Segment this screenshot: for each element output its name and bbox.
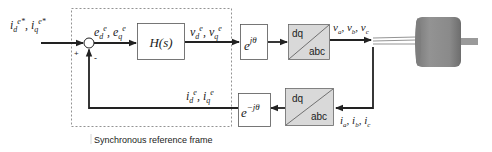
summing-junction — [84, 38, 94, 48]
current-sense-path — [336, 47, 373, 108]
abc-to-dq-block: dq abc — [286, 89, 334, 126]
error-signal-label: ede, eqe — [94, 24, 126, 41]
controller-label: H(s) — [148, 35, 172, 50]
frame-caption: Synchronous reference frame — [94, 135, 213, 145]
plus-sign: + — [74, 49, 79, 58]
voltage-command-label: vde, vqe — [190, 24, 222, 41]
abc-label-bottom: abc — [311, 111, 327, 122]
dq-label-bottom: dq — [292, 93, 303, 104]
dq-to-abc-block: dq abc — [289, 25, 330, 60]
phase-voltage-label: va, vb, vc — [333, 21, 370, 36]
three-phase-wires — [373, 37, 416, 44]
dq-label: dq — [292, 28, 303, 39]
abc-label: abc — [309, 46, 325, 57]
phase-current-label: ia, ib, ic — [340, 114, 371, 129]
reference-current-label: ide*, iqe* — [10, 17, 46, 34]
motor-icon — [415, 17, 478, 67]
minus-sign: - — [94, 53, 97, 63]
feedback-current-label: ide, iqe — [186, 88, 214, 105]
control-diagram: ide*, iqe* + - ede, eqe H(s) vde, vqe ej… — [0, 0, 492, 152]
